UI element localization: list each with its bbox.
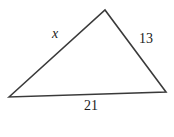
side-label-13: 13 — [139, 32, 153, 46]
side-label-21: 21 — [84, 99, 98, 113]
triangle-figure: x 13 21 — [0, 0, 174, 137]
triangle-outline — [9, 10, 166, 97]
side-label-x: x — [52, 27, 58, 41]
triangle-shape — [0, 0, 174, 137]
